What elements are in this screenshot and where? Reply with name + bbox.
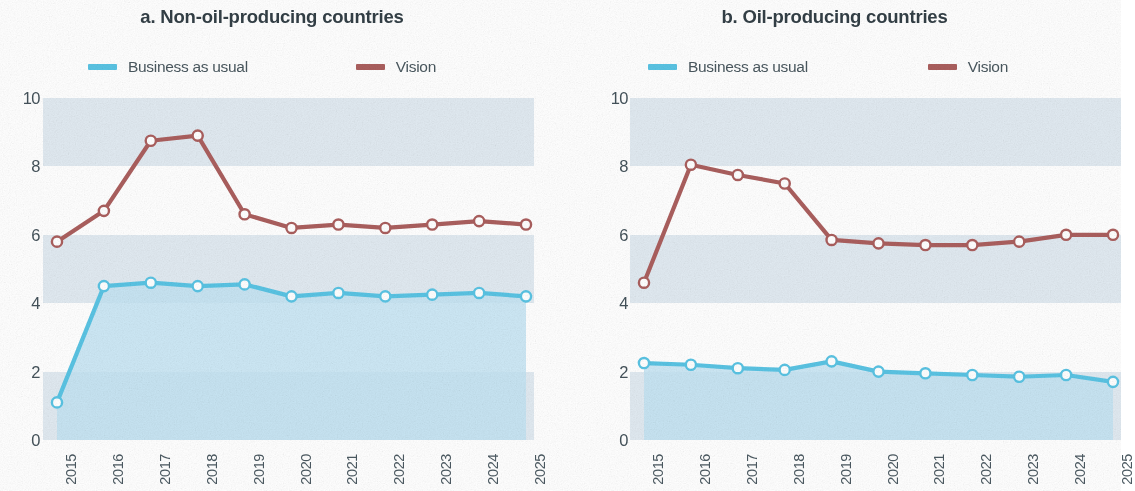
legend-label-vision: Vision [968, 58, 1008, 76]
x-tick-label: 2024 [485, 454, 501, 485]
x-tick-label: 2020 [885, 454, 901, 485]
chart-panel-a: a. Non-oil-producing countries Business … [0, 0, 560, 491]
data-point-marker[interactable] [474, 216, 484, 226]
panel-a-plot-area [43, 98, 534, 440]
x-tick-label: 2018 [791, 454, 807, 485]
data-point-marker[interactable] [639, 358, 649, 368]
panel-b-series-svg [630, 98, 1121, 440]
y-tick-label: 6 [619, 225, 628, 244]
x-tick-label: 2020 [298, 454, 314, 485]
x-tick-label: 2022 [978, 454, 994, 485]
y-tick-label: 0 [31, 431, 40, 450]
x-tick-label: 2023 [438, 454, 454, 485]
legend-swatch-icon-vision [356, 64, 385, 70]
legend-item-vision[interactable]: Vision [356, 58, 436, 76]
data-point-marker[interactable] [686, 160, 696, 170]
y-tick-label: 2 [619, 362, 628, 381]
data-point-marker[interactable] [380, 291, 390, 301]
data-point-marker[interactable] [427, 219, 437, 229]
data-point-marker[interactable] [193, 281, 203, 291]
data-point-marker[interactable] [827, 235, 837, 245]
data-point-marker[interactable] [52, 397, 62, 407]
y-tick-label: 0 [619, 431, 628, 450]
data-point-marker[interactable] [1108, 377, 1118, 387]
data-point-marker[interactable] [146, 136, 156, 146]
x-tick-label: 2018 [204, 454, 220, 485]
data-point-marker[interactable] [52, 237, 62, 247]
data-point-marker[interactable] [521, 291, 531, 301]
data-point-marker[interactable] [733, 170, 743, 180]
x-tick-label: 2015 [650, 454, 666, 485]
data-point-marker[interactable] [146, 278, 156, 288]
y-tick-label: 4 [31, 294, 40, 313]
data-point-marker[interactable] [1014, 237, 1024, 247]
data-point-marker[interactable] [733, 363, 743, 373]
y-tick-label: 6 [31, 225, 40, 244]
legend-swatch-icon-business-as-usual [88, 64, 117, 70]
series-line-vision [644, 165, 1113, 283]
data-point-marker[interactable] [1014, 372, 1024, 382]
legend-swatch-icon-vision [928, 64, 957, 70]
data-point-marker[interactable] [920, 240, 930, 250]
data-point-marker[interactable] [873, 238, 883, 248]
data-point-marker[interactable] [967, 240, 977, 250]
data-point-marker[interactable] [1061, 370, 1071, 380]
data-point-marker[interactable] [427, 290, 437, 300]
data-point-marker[interactable] [1108, 230, 1118, 240]
area-fill-business-as-usual [57, 283, 526, 440]
data-point-marker[interactable] [1061, 230, 1071, 240]
y-tick-label: 10 [23, 89, 40, 108]
panel-a-legend: Business as usual Vision [88, 56, 436, 78]
legend-item-business-as-usual[interactable]: Business as usual [88, 58, 248, 76]
data-point-marker[interactable] [193, 131, 203, 141]
x-tick-label: 2024 [1072, 454, 1088, 485]
x-tick-label: 2023 [1025, 454, 1041, 485]
legend-label-business-as-usual: Business as usual [688, 58, 808, 76]
data-point-marker[interactable] [521, 219, 531, 229]
legend-swatch-icon-business-as-usual [648, 64, 677, 70]
y-tick-label: 4 [619, 294, 628, 313]
panel-a-y-axis: 1086420 [0, 0, 40, 491]
x-tick-label: 2021 [931, 454, 947, 485]
panel-a-series-svg [43, 98, 534, 440]
panel-a-x-axis: 2015201620172018201920202021202220232024… [43, 440, 534, 491]
data-point-marker[interactable] [286, 223, 296, 233]
y-tick-label: 10 [611, 89, 628, 108]
data-point-marker[interactable] [967, 370, 977, 380]
data-point-marker[interactable] [686, 360, 696, 370]
legend-label-business-as-usual: Business as usual [128, 58, 248, 76]
data-point-marker[interactable] [780, 178, 790, 188]
panel-b-legend: Business as usual Vision [648, 56, 1008, 78]
y-tick-label: 8 [619, 157, 628, 176]
data-point-marker[interactable] [99, 206, 109, 216]
data-point-marker[interactable] [639, 278, 649, 288]
x-tick-label: 2019 [838, 454, 854, 485]
data-point-marker[interactable] [920, 368, 930, 378]
data-point-marker[interactable] [380, 223, 390, 233]
x-tick-label: 2016 [110, 454, 126, 485]
data-point-marker[interactable] [99, 281, 109, 291]
x-tick-label: 2015 [63, 454, 79, 485]
data-point-marker[interactable] [240, 279, 250, 289]
data-point-marker[interactable] [240, 209, 250, 219]
legend-item-business-as-usual[interactable]: Business as usual [648, 58, 808, 76]
panel-b-title: b. Oil-producing countries [554, 6, 1115, 28]
data-point-marker[interactable] [333, 219, 343, 229]
panel-a-title: a. Non-oil-producing countries [0, 6, 552, 28]
x-tick-label: 2017 [744, 454, 760, 485]
data-point-marker[interactable] [827, 356, 837, 366]
x-tick-label: 2021 [344, 454, 360, 485]
legend-item-vision[interactable]: Vision [928, 58, 1008, 76]
panel-b-y-axis: 1086420 [588, 0, 628, 491]
x-tick-label: 2022 [391, 454, 407, 485]
data-point-marker[interactable] [286, 291, 296, 301]
panel-b-x-axis: 2015201620172018201920202021202220232024… [630, 440, 1121, 491]
data-point-marker[interactable] [333, 288, 343, 298]
y-tick-label: 8 [31, 157, 40, 176]
x-tick-label: 2025 [1119, 454, 1135, 485]
panel-b-plot-area [630, 98, 1121, 440]
data-point-marker[interactable] [873, 367, 883, 377]
data-point-marker[interactable] [780, 365, 790, 375]
data-point-marker[interactable] [474, 288, 484, 298]
